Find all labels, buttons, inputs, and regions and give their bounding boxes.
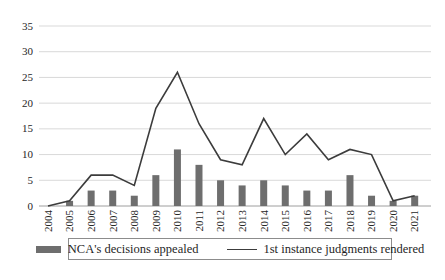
bar (88, 191, 95, 206)
y-tick-label: 10 (22, 148, 34, 160)
chart-figure: 0510152025303520042005200620072008200920… (0, 0, 445, 280)
x-tick-label: 2010 (171, 210, 183, 233)
bar (368, 196, 375, 206)
bar (325, 191, 332, 206)
y-tick-label: 30 (22, 45, 34, 57)
x-tick-label: 2005 (63, 210, 75, 233)
bar (282, 185, 289, 206)
x-tick-label: 2007 (107, 210, 119, 233)
bar (152, 175, 159, 206)
x-tick-label: 2009 (150, 210, 162, 233)
x-tick-label: 2019 (365, 210, 377, 233)
y-tick-label: 0 (28, 200, 34, 212)
legend-label-line: 1st instance judgments rendered (264, 242, 425, 257)
bar (411, 196, 418, 206)
legend-item-bars: NCA's decisions appealed (36, 242, 199, 257)
y-tick-label: 5 (28, 174, 34, 186)
bar (217, 180, 224, 206)
x-tick-label: 2020 (387, 210, 399, 233)
line-swatch-icon (227, 249, 257, 250)
bar (303, 191, 310, 206)
y-tick-label: 20 (22, 97, 34, 109)
bar (174, 149, 181, 206)
combo-chart: 0510152025303520042005200620072008200920… (0, 0, 445, 237)
y-tick-label: 15 (22, 122, 34, 134)
x-tick-label: 2015 (279, 210, 291, 233)
bar (109, 191, 116, 206)
y-tick-label: 35 (22, 20, 34, 32)
line-series (48, 72, 415, 206)
bar-swatch-icon (36, 246, 61, 253)
bar (131, 196, 138, 206)
bar (195, 165, 202, 206)
x-tick-label: 2016 (301, 210, 313, 233)
x-tick-label: 2018 (344, 210, 356, 233)
chart-legend: NCA's decisions appealed 1st instance ju… (68, 238, 392, 260)
x-tick-label: 2011 (193, 210, 205, 232)
x-tick-label: 2014 (258, 210, 270, 233)
x-tick-label: 2021 (408, 210, 420, 232)
y-tick-label: 25 (22, 71, 34, 83)
x-tick-label: 2004 (42, 210, 54, 233)
legend-item-line: 1st instance judgments rendered (227, 242, 425, 257)
x-tick-label: 2012 (214, 210, 226, 232)
bar (239, 185, 246, 206)
legend-label-bars: NCA's decisions appealed (68, 242, 199, 257)
bar (260, 180, 267, 206)
x-tick-label: 2008 (128, 210, 140, 233)
bar (346, 175, 353, 206)
x-tick-label: 2017 (322, 210, 334, 233)
x-tick-label: 2013 (236, 210, 248, 233)
x-tick-label: 2006 (85, 210, 97, 233)
